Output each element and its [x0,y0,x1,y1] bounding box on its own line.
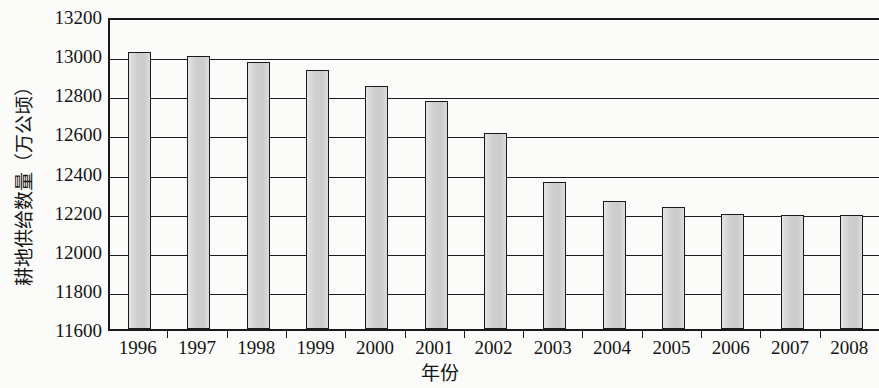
x-tick-label: 1998 [225,336,287,360]
x-tick-label: 2001 [403,336,465,360]
y-tick-label: 12800 [30,86,102,105]
x-tick-label: 1997 [166,336,228,360]
bar [425,101,448,329]
bar [662,207,685,329]
y-tick-label: 12000 [30,243,102,262]
x-tick-label: 1996 [107,336,169,360]
x-tick-label: 1999 [285,336,347,360]
y-tick-label: 13000 [30,47,102,66]
x-tick-label: 2008 [818,336,879,360]
bar [128,52,151,329]
y-tick-label: 12200 [30,204,102,223]
y-tick-label: 11600 [30,321,102,340]
bar [721,214,744,329]
x-tick-label: 2000 [344,336,406,360]
x-axis-title: 年份 [0,362,879,384]
x-tick-label: 2007 [759,336,821,360]
plot-area [108,18,879,331]
bar [603,201,626,329]
bar [543,182,566,329]
bar [306,70,329,329]
x-tick-label: 2002 [463,336,525,360]
x-tick-label: 2006 [700,336,762,360]
y-tick-label: 12600 [30,125,102,144]
bar [187,56,210,329]
y-tick-label: 12400 [30,165,102,184]
y-tick-label: 13200 [30,8,102,27]
bar-chart: 耕地供给数量（万公顷） 1320013000128001260012400122… [0,0,879,388]
x-tick-label: 2004 [581,336,643,360]
y-tick-label: 11800 [30,282,102,301]
bar [365,86,388,329]
bars-layer [110,20,879,329]
bar [840,215,863,329]
bar [484,133,507,329]
bar [247,62,270,329]
bar [781,215,804,329]
x-tick-label: 2005 [640,336,702,360]
y-axis-tick-labels: 1320013000128001260012400122001200011800… [30,0,102,388]
x-axis-tick-labels: 1996199719981999200020012002200320042005… [108,336,879,362]
x-tick-label: 2003 [522,336,584,360]
